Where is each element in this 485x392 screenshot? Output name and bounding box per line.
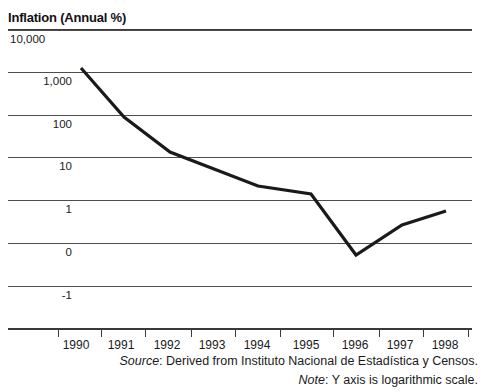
x-tick-0: [58, 330, 59, 337]
inflation-chart-figure: Inflation (Annual %) 10,000 1,000 100 10…: [0, 0, 485, 392]
series-inflation: [8, 30, 472, 330]
source-label: Source: [120, 354, 160, 368]
x-tick-9: [468, 330, 469, 337]
x-axis-label-1996: 1996: [332, 338, 378, 352]
source-text: : Derived from Instituto Nacional de Est…: [159, 354, 478, 368]
x-tick-1: [101, 330, 102, 337]
axis-note: Note: Y axis is logarithmic scale.: [8, 371, 478, 390]
x-tick-5: [280, 330, 281, 337]
note-text: : Y axis is logarithmic scale.: [325, 373, 478, 387]
x-tick-8: [423, 330, 424, 337]
inflation-line: [81, 68, 446, 255]
x-axis-label-1992: 1992: [144, 338, 190, 352]
x-tick-6: [333, 330, 334, 337]
x-tick-7: [379, 330, 380, 337]
x-axis-label-1990: 1990: [53, 338, 99, 352]
plot-area: 10,000 1,000 100 10 1 0 -1: [8, 30, 472, 330]
chart-title: Inflation (Annual %): [8, 10, 126, 25]
note-label: Note: [299, 373, 325, 387]
x-axis-label-1997: 1997: [377, 338, 423, 352]
x-axis-label-1998: 1998: [422, 338, 468, 352]
x-axis-label-1991: 1991: [98, 338, 144, 352]
x-axis-label-1993: 1993: [189, 338, 235, 352]
x-tick-3: [191, 330, 192, 337]
x-tick-4: [235, 330, 236, 337]
source-note: Source: Derived from Instituto Nacional …: [8, 352, 478, 371]
x-tick-2: [145, 330, 146, 337]
x-axis-label-1995: 1995: [283, 338, 329, 352]
x-axis-label-1994: 1994: [234, 338, 280, 352]
chart-footnotes: Source: Derived from Instituto Nacional …: [8, 352, 478, 390]
